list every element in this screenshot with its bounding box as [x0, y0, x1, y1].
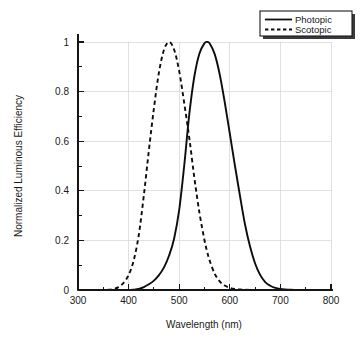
y-tick-label: 0.4 [55, 185, 69, 196]
y-tick-label: 1 [63, 37, 69, 48]
luminous-efficiency-chart: 300400500600700800 00.20.40.60.81 Wavele… [0, 0, 360, 345]
y-tick-label: 0.6 [55, 136, 69, 147]
x-tick-label: 700 [272, 295, 289, 306]
x-tick-label: 500 [171, 295, 188, 306]
y-tick-label: 0 [63, 285, 69, 296]
x-axis-title: Wavelength (nm) [166, 319, 242, 330]
y-tick-label: 0.2 [55, 235, 69, 246]
y-tick-label: 0.8 [55, 86, 69, 97]
chart-figure: 300400500600700800 00.20.40.60.81 Wavele… [0, 0, 360, 345]
x-tick-label: 600 [221, 295, 238, 306]
y-axis-title: Normalized Luminous Efficiency [13, 95, 24, 237]
x-tick-label: 800 [323, 295, 340, 306]
x-tick-label: 400 [120, 295, 137, 306]
legend: Photopic Scotopic [260, 11, 355, 39]
x-tick-label: 300 [70, 295, 87, 306]
legend-label-scotopic: Scotopic [295, 24, 332, 35]
chart-background [0, 0, 360, 345]
